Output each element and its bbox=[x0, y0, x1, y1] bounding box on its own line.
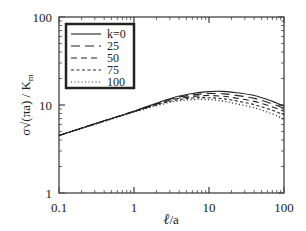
x-tick-10: 10 bbox=[203, 200, 216, 215]
plot-curves bbox=[59, 91, 284, 135]
curve-50 bbox=[59, 96, 284, 136]
y-tick-10: 10 bbox=[39, 98, 52, 113]
chart-canvas: 100 10 1 0.1 1 10 100 ℓ/a σ√(πa) / Km k=… bbox=[0, 0, 306, 231]
y-axis-title-main: σ√(πa) / K bbox=[18, 81, 33, 136]
curve-75 bbox=[59, 98, 284, 136]
x-tick-0.1: 0.1 bbox=[51, 200, 67, 215]
y-tick-100: 100 bbox=[33, 10, 53, 25]
x-tick-1: 1 bbox=[131, 200, 138, 215]
y-tick-1: 1 bbox=[46, 186, 53, 201]
legend-label: 100 bbox=[107, 75, 125, 89]
y-axis-title: σ√(πa) / Km bbox=[18, 74, 35, 136]
y-axis-title-sub: m bbox=[25, 74, 35, 81]
x-axis-title-rest: /a bbox=[169, 212, 179, 227]
curve-100 bbox=[59, 99, 284, 135]
x-tick-100: 100 bbox=[274, 200, 294, 215]
legend: k=0255075100 bbox=[66, 24, 134, 89]
curve-25 bbox=[59, 93, 284, 135]
x-axis-title: ℓ/a bbox=[163, 211, 179, 227]
